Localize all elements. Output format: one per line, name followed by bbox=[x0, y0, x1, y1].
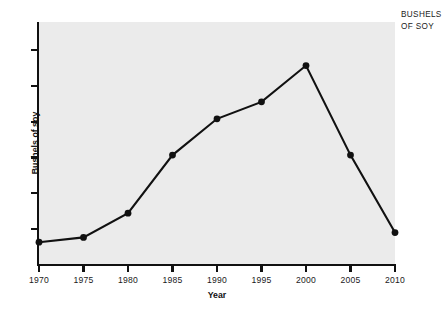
y-axis-title: Bushels of soy bbox=[30, 112, 40, 175]
corner-caption: BUSHELS OF SOY bbox=[401, 9, 447, 32]
x-tick-label-2005: 2005 bbox=[341, 275, 361, 285]
data-point-2010 bbox=[392, 229, 399, 236]
y-tick-4 bbox=[31, 85, 39, 87]
soy-line-chart-figure: BUSHELS OF SOY 1970197519801985199019952… bbox=[0, 0, 447, 315]
x-tick-label-1975: 1975 bbox=[74, 275, 94, 285]
x-tick-label-1985: 1985 bbox=[163, 275, 183, 285]
x-tick-1985 bbox=[171, 264, 173, 272]
data-point-1970 bbox=[36, 239, 43, 246]
x-tick-label-1980: 1980 bbox=[118, 275, 138, 285]
y-tick-0 bbox=[31, 228, 39, 230]
series-markers bbox=[36, 62, 399, 245]
data-point-2000 bbox=[303, 62, 310, 69]
x-tick-1990 bbox=[216, 264, 218, 272]
x-tick-2000 bbox=[305, 264, 307, 272]
x-tick-label-1970: 1970 bbox=[29, 275, 49, 285]
x-tick-2005 bbox=[349, 264, 351, 272]
x-tick-label-2010: 2010 bbox=[385, 275, 405, 285]
data-point-1985 bbox=[169, 152, 176, 159]
data-point-1975 bbox=[80, 234, 87, 241]
x-tick-label-1990: 1990 bbox=[207, 275, 227, 285]
plot-area: 197019751980198519901995200020052010 Bus… bbox=[37, 22, 395, 266]
x-tick-1980 bbox=[127, 264, 129, 272]
x-tick-1975 bbox=[82, 264, 84, 272]
data-point-1995 bbox=[258, 98, 265, 105]
x-tick-2010 bbox=[394, 264, 396, 272]
y-tick-5 bbox=[31, 49, 39, 51]
corner-caption-line-1: BUSHELS bbox=[401, 9, 447, 21]
series-bushels-of-soy bbox=[39, 22, 395, 264]
series-line bbox=[39, 66, 395, 243]
x-tick-label-1995: 1995 bbox=[252, 275, 272, 285]
data-point-1990 bbox=[214, 115, 221, 122]
x-axis-title: Year bbox=[208, 290, 227, 300]
corner-caption-line-2: OF SOY bbox=[401, 21, 447, 33]
data-point-2005 bbox=[347, 152, 354, 159]
x-tick-1995 bbox=[260, 264, 262, 272]
x-tick-1970 bbox=[38, 264, 40, 272]
y-tick-1 bbox=[31, 192, 39, 194]
x-tick-label-2000: 2000 bbox=[296, 275, 316, 285]
data-point-1980 bbox=[125, 210, 132, 217]
